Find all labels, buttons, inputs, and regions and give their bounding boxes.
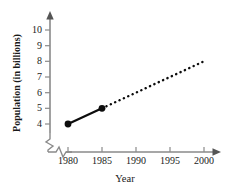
data-point-1980 (65, 121, 72, 128)
y-axis-title: Population (in billions) (12, 23, 22, 143)
y-tick-label-8: 8 (20, 56, 42, 66)
y-tick-label-5: 5 (20, 103, 42, 113)
y-tick-label-9: 9 (20, 41, 42, 51)
series-observed-line (68, 108, 102, 124)
y-tick-label-10: 10 (20, 25, 42, 35)
y-tick-label-7: 7 (20, 72, 42, 82)
y-tick-label-6: 6 (20, 88, 42, 98)
x-axis-title: Year (85, 174, 165, 185)
y-tick-label-4: 4 (20, 119, 42, 129)
x-tick-label-1990: 1990 (121, 156, 151, 166)
y-axis-break-icon (46, 133, 53, 152)
y-axis-arrow-icon (46, 11, 53, 20)
population-line-chart: 10 9 8 7 6 5 4 1980 1985 1990 1995 2000 … (0, 0, 226, 194)
x-tick-label-1995: 1995 (155, 156, 185, 166)
x-tick-label-1985: 1985 (87, 156, 117, 166)
series-projected-line (102, 61, 204, 108)
x-tick-label-1980: 1980 (53, 156, 83, 166)
data-point-1985 (99, 105, 106, 112)
x-tick-label-2000: 2000 (189, 156, 219, 166)
